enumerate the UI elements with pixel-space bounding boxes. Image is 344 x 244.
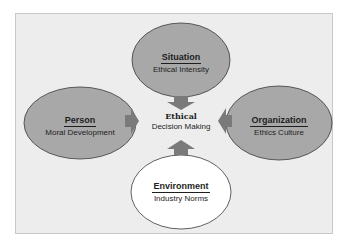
arrow-down-icon bbox=[167, 96, 195, 110]
environment-node: Environment Industry Norms bbox=[131, 175, 231, 204]
situation-subtitle: Ethical Intensity bbox=[131, 64, 231, 75]
organization-node: Organization Ethics Culture bbox=[228, 109, 330, 138]
situation-title: Situation bbox=[161, 52, 202, 64]
center-subtitle: Decision Making bbox=[138, 121, 224, 132]
arrow-up-icon bbox=[167, 140, 195, 155]
person-title: Person bbox=[64, 115, 97, 127]
environment-subtitle: Industry Norms bbox=[131, 193, 231, 204]
organization-subtitle: Ethics Culture bbox=[228, 127, 330, 138]
person-subtitle: Moral Development bbox=[24, 127, 136, 138]
organization-title: Organization bbox=[250, 115, 307, 127]
situation-node: Situation Ethical Intensity bbox=[131, 46, 231, 75]
person-node: Person Moral Development bbox=[24, 109, 136, 138]
center-node: Ethical Decision Making bbox=[138, 111, 224, 132]
center-title: Ethical bbox=[138, 111, 224, 121]
environment-title: Environment bbox=[152, 181, 209, 193]
